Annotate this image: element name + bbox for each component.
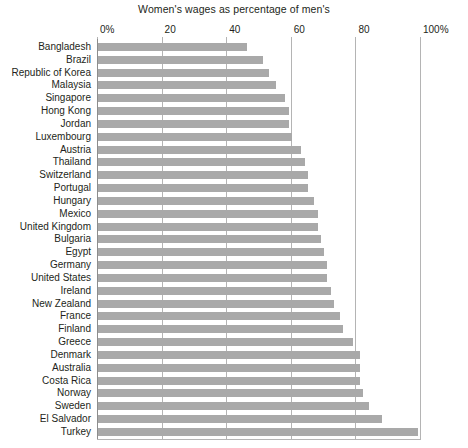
category-label-france: France xyxy=(0,310,91,322)
bar-row: Hong Kong xyxy=(0,105,468,118)
category-label-bulgaria: Bulgaria xyxy=(0,233,91,245)
category-label-austria: Austria xyxy=(0,144,91,156)
category-label-denmark: Denmark xyxy=(0,349,91,361)
bar-united-states xyxy=(98,274,327,282)
bar-row: Luxembourg xyxy=(0,131,468,144)
bar-row: Austria xyxy=(0,144,468,157)
bar-greece xyxy=(98,338,353,346)
category-label-el-salvador: El Salvador xyxy=(0,413,91,425)
bar-row: Greece xyxy=(0,336,468,349)
bar-malaysia xyxy=(98,81,276,89)
category-label-germany: Germany xyxy=(0,259,91,271)
category-label-republic-of-korea: Republic of Korea xyxy=(0,67,91,79)
bar-bulgaria xyxy=(98,235,321,243)
category-label-turkey: Turkey xyxy=(0,426,91,438)
bar-thailand xyxy=(98,158,305,166)
category-label-greece: Greece xyxy=(0,336,91,348)
category-label-singapore: Singapore xyxy=(0,92,91,104)
bar-ireland xyxy=(98,287,331,295)
category-label-ireland: Ireland xyxy=(0,285,91,297)
bar-row: Egypt xyxy=(0,246,468,259)
bar-brazil xyxy=(98,56,263,64)
category-label-finland: Finland xyxy=(0,323,91,335)
bar-row: France xyxy=(0,310,468,323)
bar-row: Finland xyxy=(0,323,468,336)
bar-germany xyxy=(98,261,327,269)
bar-row: Mexico xyxy=(0,208,468,221)
bar-bangladesh xyxy=(98,43,247,51)
bar-row: Germany xyxy=(0,259,468,272)
category-label-mexico: Mexico xyxy=(0,208,91,220)
bar-row: Brazil xyxy=(0,54,468,67)
bar-austria xyxy=(98,146,301,154)
bar-row: Turkey xyxy=(0,426,468,439)
bar-row: Malaysia xyxy=(0,79,468,92)
bar-row: United Kingdom xyxy=(0,221,468,234)
category-label-costa-rica: Costa Rica xyxy=(0,375,91,387)
bar-turkey xyxy=(98,428,418,436)
category-label-luxembourg: Luxembourg xyxy=(0,131,91,143)
bar-luxembourg xyxy=(98,133,292,141)
category-label-bangladesh: Bangladesh xyxy=(0,41,91,53)
x-axis-baseline xyxy=(97,439,421,440)
bar-norway xyxy=(98,389,363,397)
bar-denmark xyxy=(98,351,360,359)
chart-container: Women's wages as percentage of men's 0%2… xyxy=(0,0,468,448)
category-label-switzerland: Switzerland xyxy=(0,169,91,181)
bar-row: Jordan xyxy=(0,118,468,131)
bar-republic-of-korea xyxy=(98,69,269,77)
bar-el-salvador xyxy=(98,415,382,423)
category-label-malaysia: Malaysia xyxy=(0,79,91,91)
bar-row: Australia xyxy=(0,362,468,375)
bar-row: Singapore xyxy=(0,92,468,105)
bar-row: Costa Rica xyxy=(0,375,468,388)
category-label-hong-kong: Hong Kong xyxy=(0,105,91,117)
category-label-egypt: Egypt xyxy=(0,246,91,258)
category-label-sweden: Sweden xyxy=(0,400,91,412)
bar-switzerland xyxy=(98,171,308,179)
category-label-new-zealand: New Zealand xyxy=(0,298,91,310)
bar-row: Republic of Korea xyxy=(0,67,468,80)
bar-finland xyxy=(98,325,343,333)
bar-portugal xyxy=(98,184,308,192)
category-label-australia: Australia xyxy=(0,362,91,374)
bar-row: Ireland xyxy=(0,285,468,298)
bar-row: United States xyxy=(0,272,468,285)
bar-row: Denmark xyxy=(0,349,468,362)
bar-row: Bulgaria xyxy=(0,233,468,246)
category-label-norway: Norway xyxy=(0,387,91,399)
bar-row: Bangladesh xyxy=(0,41,468,54)
bar-row: Norway xyxy=(0,387,468,400)
category-label-jordan: Jordan xyxy=(0,118,91,130)
bar-united-kingdom xyxy=(98,223,318,231)
category-label-thailand: Thailand xyxy=(0,156,91,168)
bar-row: Portugal xyxy=(0,182,468,195)
bar-row: El Salvador xyxy=(0,413,468,426)
bar-singapore xyxy=(98,94,285,102)
bar-hungary xyxy=(98,197,314,205)
bar-row: New Zealand xyxy=(0,298,468,311)
bar-costa-rica xyxy=(98,377,360,385)
bar-row: Hungary xyxy=(0,195,468,208)
bar-egypt xyxy=(98,248,324,256)
bar-new-zealand xyxy=(98,300,334,308)
bar-jordan xyxy=(98,120,289,128)
bar-rows: BangladeshBrazilRepublic of KoreaMalaysi… xyxy=(0,0,468,448)
bar-row: Switzerland xyxy=(0,169,468,182)
category-label-hungary: Hungary xyxy=(0,195,91,207)
bar-row: Sweden xyxy=(0,400,468,413)
category-label-united-kingdom: United Kingdom xyxy=(0,221,91,233)
category-label-united-states: United States xyxy=(0,272,91,284)
category-label-portugal: Portugal xyxy=(0,182,91,194)
category-label-brazil: Brazil xyxy=(0,54,91,66)
bar-australia xyxy=(98,364,360,372)
bar-sweden xyxy=(98,402,369,410)
bar-row: Thailand xyxy=(0,156,468,169)
bar-mexico xyxy=(98,210,318,218)
bar-hong-kong xyxy=(98,107,289,115)
bar-france xyxy=(98,312,340,320)
